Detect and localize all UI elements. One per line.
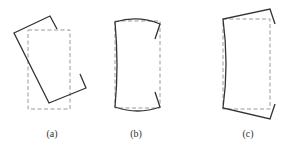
panel-b: [115, 19, 160, 111]
deformed-section-b: [115, 19, 160, 111]
panel-b-label: (b): [121, 128, 151, 139]
panel-a-label: (a): [37, 128, 67, 139]
panel-c: [223, 9, 275, 119]
panel-a: [14, 16, 86, 109]
original-section-c: [223, 19, 270, 109]
panel-c-label: (c): [233, 128, 263, 139]
deformed-section-c: [223, 9, 275, 119]
deformed-section-a: [14, 16, 86, 103]
original-section-b: [115, 21, 160, 108]
